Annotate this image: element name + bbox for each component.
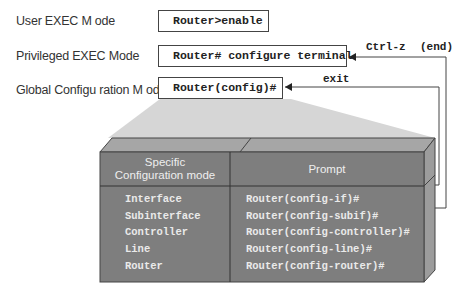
exit-label: exit xyxy=(323,73,349,85)
table-side-face xyxy=(424,138,435,282)
row-mode-router: Router xyxy=(125,260,163,272)
header-prompt: Prompt xyxy=(230,163,424,176)
header-config-mode: Specific Configuration mode xyxy=(100,156,230,182)
exit-arrowhead-icon xyxy=(285,83,292,91)
ctrl-z-label: Ctrl-z xyxy=(366,41,406,53)
table-top-face xyxy=(100,138,435,152)
command-box-enable: Router>enable xyxy=(158,10,269,32)
mode-label-privileged-exec: Privileged EXEC Mode xyxy=(16,49,139,63)
command-box-configure-terminal: Router# configure terminal xyxy=(158,45,347,67)
row-prompt-interface: Router(config-if)# xyxy=(246,193,359,205)
header-config-mode-line2: Configuration mode xyxy=(100,169,230,182)
row-prompt-line: Router(config-line)# xyxy=(246,243,372,255)
mode-label-global-config: Global Configu ration M ode xyxy=(16,83,166,97)
row-mode-interface: Interface xyxy=(125,193,182,205)
command-box-config: Router(config)# xyxy=(158,77,283,99)
row-prompt-subinterface: Router(config-subif)# xyxy=(246,210,378,222)
row-prompt-controller: Router(config-controller)# xyxy=(246,226,410,238)
header-config-mode-line1: Specific xyxy=(100,156,230,169)
projection-wedge xyxy=(108,99,435,138)
row-prompt-router: Router(config-router)# xyxy=(246,260,385,272)
mode-label-user-exec: User EXEC M ode xyxy=(16,14,115,28)
row-mode-controller: Controller xyxy=(125,226,188,238)
row-mode-line: Line xyxy=(125,243,150,255)
row-mode-subinterface: Subinterface xyxy=(125,210,201,222)
end-label: (end) xyxy=(420,41,453,53)
